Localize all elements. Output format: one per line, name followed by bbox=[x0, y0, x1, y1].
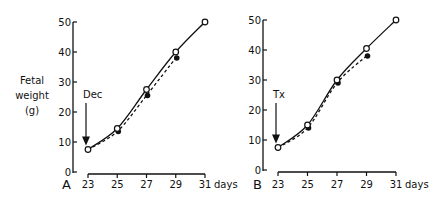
control-line bbox=[88, 22, 205, 150]
x-tick-label: 27 bbox=[331, 179, 344, 190]
chart-panel-a: 010203040502325272931daysADec bbox=[58, 17, 237, 192]
treatment-annotation: Tx bbox=[272, 89, 285, 100]
arrowhead-icon bbox=[272, 135, 280, 144]
control-data-point bbox=[173, 49, 179, 55]
panel-letter: A bbox=[62, 177, 71, 192]
treated-data-point bbox=[365, 53, 371, 59]
treated-line bbox=[88, 58, 176, 150]
treatment-annotation: Dec bbox=[83, 89, 102, 100]
control-data-point bbox=[144, 87, 150, 93]
y-tick-label: 20 bbox=[248, 105, 261, 116]
panel-letter: B bbox=[253, 177, 262, 192]
y-tick-label: 10 bbox=[58, 137, 71, 148]
control-data-point bbox=[275, 145, 281, 151]
x-axis-label: days bbox=[405, 179, 429, 190]
y-tick-label: 30 bbox=[58, 77, 71, 88]
y-tick-label: 50 bbox=[248, 15, 261, 26]
treated-data-point bbox=[174, 55, 180, 61]
chart-canvas: 010203040502325272931daysADec01020304050… bbox=[0, 0, 441, 197]
x-tick-label: 25 bbox=[111, 179, 124, 190]
x-tick-label: 27 bbox=[140, 179, 153, 190]
arrowhead-icon bbox=[82, 137, 90, 146]
y-tick-label: 10 bbox=[248, 135, 261, 146]
y-tick-label: 0 bbox=[255, 165, 261, 176]
y-tick-label: 40 bbox=[248, 45, 261, 56]
y-tick-label: 50 bbox=[58, 17, 71, 28]
x-tick-label: 29 bbox=[360, 179, 373, 190]
control-data-point bbox=[334, 77, 340, 83]
x-tick-label: 31 bbox=[199, 179, 212, 190]
control-data-point bbox=[202, 19, 208, 25]
x-axis-label: days bbox=[214, 179, 238, 190]
control-data-point bbox=[305, 122, 311, 128]
y-tick-label: 20 bbox=[58, 107, 71, 118]
treated-data-point bbox=[145, 93, 151, 99]
treated-line bbox=[278, 56, 367, 148]
y-tick-label: 40 bbox=[58, 47, 71, 58]
x-tick-label: 29 bbox=[169, 179, 182, 190]
x-tick-label: 31 bbox=[390, 179, 403, 190]
chart-panel-b: 010203040502325272931daysBTx bbox=[248, 15, 428, 192]
y-tick-label: 30 bbox=[248, 75, 261, 86]
x-tick-label: 23 bbox=[82, 179, 95, 190]
x-tick-label: 23 bbox=[272, 179, 285, 190]
control-data-point bbox=[393, 17, 399, 23]
control-data-point bbox=[114, 126, 120, 132]
control-data-point bbox=[364, 46, 370, 52]
x-tick-label: 25 bbox=[301, 179, 314, 190]
control-data-point bbox=[85, 147, 91, 153]
